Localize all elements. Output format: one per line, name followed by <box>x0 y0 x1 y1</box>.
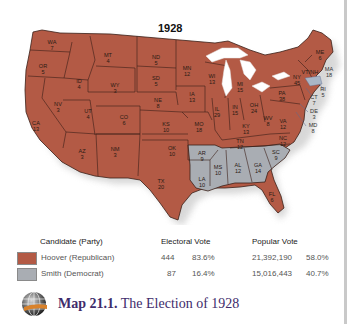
state-electoral-votes: 29 <box>214 112 220 118</box>
state-label-id: ID4 <box>76 78 82 90</box>
state-label-fl: FL6 <box>269 191 276 203</box>
state-electoral-votes: 6 <box>269 197 276 203</box>
state-electoral-votes: 12 <box>183 71 192 77</box>
caption-title: The Election of 1928 <box>118 296 240 311</box>
legend-table: Candidate (Party) Electoral Vote Popular… <box>0 225 344 285</box>
state-electoral-votes: 3 <box>78 154 85 160</box>
state-label-or: OR5 <box>39 63 47 75</box>
state-electoral-votes: 3 <box>54 107 62 113</box>
state-electoral-votes: 8 <box>263 121 272 127</box>
state-abbr: VT/NH <box>302 69 319 75</box>
state-label-sd: SD5 <box>152 75 160 87</box>
state-electoral-votes: 5 <box>39 69 47 75</box>
legend-row-pop-pct: 58.0% <box>306 253 329 262</box>
legend-swatch-republican <box>17 252 37 265</box>
state-electoral-votes: 4 <box>84 114 91 120</box>
page-edge-rule <box>344 0 347 324</box>
state-electoral-votes: 10 <box>162 127 169 133</box>
map-caption: Map 21.1. The Election of 1928 <box>20 290 340 320</box>
state-label-ok: OK10 <box>168 145 176 157</box>
caption-label: Map 21.1. <box>58 296 118 311</box>
state-label-nd: ND5 <box>152 54 160 66</box>
state-electoral-votes: 18 <box>325 72 333 78</box>
state-electoral-votes: 24 <box>250 108 258 114</box>
legend-row-ev: 87 <box>167 269 176 278</box>
state-electoral-votes: 45 <box>293 80 301 86</box>
header-candidate: Candidate (Party) <box>40 237 103 246</box>
state-electoral-votes: 6 <box>316 55 324 61</box>
state-label-co: CO6 <box>120 114 128 126</box>
state-label-ia: IA13 <box>189 91 195 103</box>
state-electoral-votes: 10 <box>214 170 222 176</box>
state-electoral-votes: 9 <box>272 155 280 161</box>
state-label-nm: NM3 <box>111 146 120 158</box>
state-label-va: VA12 <box>279 118 286 130</box>
state-label-mi: MI15 <box>237 81 243 93</box>
state-electoral-votes: 3 <box>111 152 120 158</box>
state-label-la: LA10 <box>199 176 206 188</box>
state-label-ma: MA18 <box>325 66 333 78</box>
caption-text: Map 21.1. The Election of 1928 <box>58 296 239 312</box>
state-electoral-votes: 7 <box>48 45 57 51</box>
state-label-ks: KS10 <box>162 121 169 133</box>
state-label-sc: SC9 <box>272 149 280 161</box>
state-electoral-votes: 12 <box>279 141 287 147</box>
legend-row-popular: 15,016,443 <box>252 269 292 278</box>
state-label-ar: AR9 <box>198 150 206 162</box>
state-label-ky: KY13 <box>242 123 249 135</box>
legend-row-popular: 21,392,190 <box>252 253 292 262</box>
legend-row-candidate: Smith (Democrat) <box>41 269 104 278</box>
state-electoral-votes: 10 <box>199 182 206 188</box>
state-label-tn: TN12 <box>236 138 243 150</box>
state-electoral-votes: 9 <box>198 156 206 162</box>
state-label-ca: CA13 <box>32 120 40 132</box>
state-label-nc: NC12 <box>279 135 287 147</box>
state-label-az: AZ3 <box>78 148 85 160</box>
state-label-mn: MN12 <box>183 65 192 77</box>
state-electoral-votes: 3 <box>110 88 119 94</box>
legend-row-candidate: Hoover (Republican) <box>41 253 114 262</box>
state-electoral-votes: 15 <box>237 87 243 93</box>
state-electoral-votes: 7 <box>310 100 317 106</box>
state-label-pa: PA38 <box>278 90 285 102</box>
state-label-al: AL12 <box>235 162 242 174</box>
map-title: 1928 <box>158 22 182 34</box>
state-electoral-votes: 8 <box>309 128 318 134</box>
state-label-me: ME6 <box>316 49 324 61</box>
legend-row-ev: 444 <box>161 253 174 262</box>
state-electoral-votes: 13 <box>242 129 249 135</box>
state-electoral-votes: 3 <box>310 114 318 120</box>
legend-row-ev-pct: 83.6% <box>192 253 215 262</box>
state-label-il: IL29 <box>214 106 220 118</box>
state-electoral-votes: 8 <box>154 103 162 109</box>
state-label-ny: NY45 <box>293 74 301 86</box>
header-electoral-vote: Electoral Vote <box>161 237 210 246</box>
state-electoral-votes: 13 <box>32 126 40 132</box>
state-label-nv: NV3 <box>54 101 62 113</box>
state-label-ms: MS10 <box>214 164 222 176</box>
state-electoral-votes: 12 <box>236 144 243 150</box>
state-label-ri: RI5 <box>320 86 326 98</box>
state-electoral-votes: 20 <box>157 184 164 190</box>
election-map: 1928 WA7OR5CA13ID4NV3MT4WY3UT4CO6AZ3NM3N… <box>0 0 344 225</box>
state-label-ga: GA14 <box>254 162 262 174</box>
state-label-mo: MO18 <box>194 121 203 133</box>
state-label-wv: WV8 <box>263 115 272 127</box>
state-label-in: IN15 <box>232 104 238 116</box>
state-electoral-votes: 12 <box>235 168 242 174</box>
state-electoral-votes: 14 <box>254 168 262 174</box>
state-electoral-votes: 6 <box>120 120 128 126</box>
state-label-tx: TX20 <box>157 178 164 190</box>
state-electoral-votes: 38 <box>278 96 285 102</box>
state-label-ut: UT4 <box>84 108 91 120</box>
state-label-de: DE3 <box>310 108 318 120</box>
state-label-wi: WI13 <box>209 73 216 85</box>
state-electoral-votes: 13 <box>209 79 216 85</box>
state-label-ne: NE8 <box>154 97 162 109</box>
legend-row-ev-pct: 16.4% <box>192 269 215 278</box>
state-electoral-votes: 15 <box>232 110 238 116</box>
state-label-wa: WA7 <box>48 39 57 51</box>
state-electoral-votes: 12 <box>279 124 286 130</box>
state-electoral-votes: 5 <box>152 60 160 66</box>
legend-row-pop-pct: 40.7% <box>306 269 329 278</box>
